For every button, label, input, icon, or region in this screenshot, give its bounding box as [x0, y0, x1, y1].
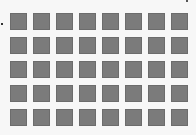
grid-tile-r2-c6[interactable] — [125, 37, 142, 54]
tile-grid-canvas — [0, 0, 196, 135]
grid-tile-r2-c1[interactable] — [10, 37, 27, 54]
grid-tile-r2-c3[interactable] — [56, 37, 73, 54]
grid-tile-r3-c1[interactable] — [10, 61, 27, 78]
grid-tile-r1-c5[interactable] — [102, 13, 119, 30]
grid-tile-r5-c6[interactable] — [125, 109, 142, 126]
grid-tile-r5-c2[interactable] — [33, 109, 50, 126]
grid-tile-r3-c3[interactable] — [56, 61, 73, 78]
grid-tile-r3-c5[interactable] — [102, 61, 119, 78]
top-right-dot-marker-icon — [186, 0, 188, 2]
grid-tile-r4-c8[interactable] — [171, 85, 188, 102]
grid-tile-r4-c5[interactable] — [102, 85, 119, 102]
grid-tile-r4-c3[interactable] — [56, 85, 73, 102]
grid-tile-r5-c4[interactable] — [79, 109, 96, 126]
grid-tile-r4-c1[interactable] — [10, 85, 27, 102]
grid-tile-r1-c2[interactable] — [33, 13, 50, 30]
grid-tile-r2-c5[interactable] — [102, 37, 119, 54]
left-dot-marker-icon — [1, 23, 3, 25]
grid-tile-r3-c2[interactable] — [33, 61, 50, 78]
grid-tile-r2-c7[interactable] — [148, 37, 165, 54]
tile-grid — [10, 13, 188, 126]
grid-tile-r3-c4[interactable] — [79, 61, 96, 78]
grid-tile-r4-c6[interactable] — [125, 85, 142, 102]
grid-tile-r5-c7[interactable] — [148, 109, 165, 126]
grid-tile-r1-c1[interactable] — [10, 13, 27, 30]
grid-tile-r5-c5[interactable] — [102, 109, 119, 126]
grid-tile-r1-c6[interactable] — [125, 13, 142, 30]
grid-tile-r2-c4[interactable] — [79, 37, 96, 54]
grid-tile-r4-c4[interactable] — [79, 85, 96, 102]
grid-tile-r3-c7[interactable] — [148, 61, 165, 78]
grid-tile-r1-c3[interactable] — [56, 13, 73, 30]
grid-tile-r1-c7[interactable] — [148, 13, 165, 30]
grid-tile-r2-c8[interactable] — [171, 37, 188, 54]
grid-tile-r1-c8[interactable] — [171, 13, 188, 30]
grid-tile-r3-c6[interactable] — [125, 61, 142, 78]
grid-tile-r1-c4[interactable] — [79, 13, 96, 30]
grid-tile-r5-c8[interactable] — [171, 109, 188, 126]
grid-tile-r4-c7[interactable] — [148, 85, 165, 102]
grid-tile-r4-c2[interactable] — [33, 85, 50, 102]
grid-tile-r5-c3[interactable] — [56, 109, 73, 126]
grid-tile-r2-c2[interactable] — [33, 37, 50, 54]
grid-tile-r5-c1[interactable] — [10, 109, 27, 126]
grid-tile-r3-c8[interactable] — [171, 61, 188, 78]
